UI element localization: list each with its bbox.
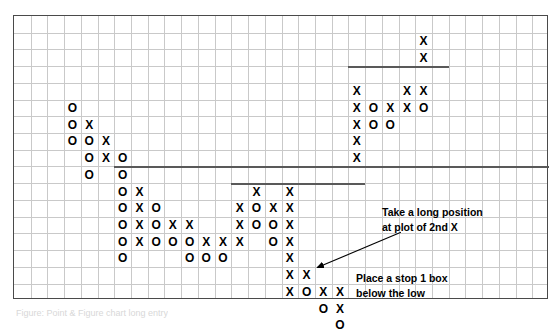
- pnf-x-mark: X: [415, 83, 432, 100]
- pnf-o-mark: O: [81, 133, 98, 150]
- pnf-o-mark: O: [248, 200, 265, 217]
- grid-vline: [365, 16, 366, 298]
- pnf-x-mark: X: [81, 116, 98, 133]
- pnf-x-mark: X: [315, 284, 332, 301]
- grid-vline: [332, 16, 333, 298]
- grid-vline: [432, 16, 433, 298]
- pnf-x-mark: X: [164, 217, 181, 234]
- pnf-x-mark: X: [282, 200, 299, 217]
- long-entry-note: Take a long positionat plot of 2nd X: [382, 205, 483, 235]
- pnf-o-mark: O: [148, 217, 165, 234]
- figure-caption: Figure: Point & Figure chart long entry: [16, 308, 168, 320]
- pnf-x-mark: X: [415, 49, 432, 66]
- pnf-x-mark: X: [348, 116, 365, 133]
- pnf-o-mark: O: [164, 233, 181, 250]
- pnf-x-mark: X: [399, 83, 416, 100]
- pnf-x-mark: X: [98, 133, 115, 150]
- pnf-x-mark: X: [348, 133, 365, 150]
- pnf-x-mark: X: [282, 284, 299, 301]
- pnf-x-mark: X: [198, 233, 215, 250]
- grid-vline: [449, 16, 450, 298]
- grid-vline: [131, 16, 132, 298]
- grid-vline: [64, 16, 65, 298]
- pnf-o-mark: O: [148, 233, 165, 250]
- pnf-o-mark: O: [181, 250, 198, 267]
- grid-hline: [14, 83, 547, 84]
- support-line-low: [114, 166, 549, 168]
- pnf-o-mark: O: [198, 250, 215, 267]
- grid-vline: [516, 16, 517, 298]
- pnf-x-mark: X: [131, 200, 148, 217]
- grid-hline: [14, 250, 547, 251]
- pnf-x-mark: X: [215, 233, 232, 250]
- pnf-x-mark: X: [231, 217, 248, 234]
- grid-vline: [148, 16, 149, 298]
- pnf-x-mark: X: [382, 100, 399, 117]
- pnf-o-mark: O: [332, 317, 349, 333]
- grid-hline: [14, 33, 547, 34]
- pnf-x-mark: X: [399, 100, 416, 117]
- pnf-x-mark: X: [282, 233, 299, 250]
- pnf-o-mark: O: [114, 150, 131, 167]
- grid-vline: [248, 16, 249, 298]
- pnf-o-mark: O: [114, 250, 131, 267]
- grid-vline: [164, 16, 165, 298]
- pnf-o-mark: O: [81, 166, 98, 183]
- pnf-o-mark: O: [114, 166, 131, 183]
- long-entry-note-line1: Take a long position: [382, 205, 483, 220]
- pnf-o-mark: O: [64, 100, 81, 117]
- grid-vline: [31, 16, 32, 298]
- pnf-x-mark: X: [415, 33, 432, 50]
- pnf-x-mark: X: [282, 250, 299, 267]
- pnf-o-mark: O: [64, 133, 81, 150]
- grid-vline: [482, 16, 483, 298]
- pnf-x-mark: X: [181, 217, 198, 234]
- stop-loss-note-line1: Place a stop 1 box: [356, 271, 448, 286]
- grid-vline: [465, 16, 466, 298]
- pnf-x-mark: X: [231, 200, 248, 217]
- pnf-o-mark: O: [415, 100, 432, 117]
- grid-hline: [14, 284, 547, 285]
- pnf-o-mark: O: [265, 233, 282, 250]
- pnf-x-mark: X: [231, 233, 248, 250]
- pnf-o-mark: O: [148, 200, 165, 217]
- pnf-x-mark: X: [332, 300, 349, 317]
- pnf-x-mark: X: [131, 217, 148, 234]
- pnf-x-mark: X: [98, 150, 115, 167]
- pnf-o-mark: O: [81, 150, 98, 167]
- pnf-o-mark: O: [114, 183, 131, 200]
- pnf-o-mark: O: [114, 200, 131, 217]
- grid-vline: [382, 16, 383, 298]
- grid-vline: [315, 16, 316, 298]
- pnf-x-mark: X: [248, 183, 265, 200]
- pnf-o-mark: O: [114, 217, 131, 234]
- pnf-o-mark: O: [181, 233, 198, 250]
- long-entry-note-line2: at plot of 2nd X: [382, 220, 483, 235]
- grid-vline: [499, 16, 500, 298]
- pnf-o-mark: O: [248, 217, 265, 234]
- grid-vline: [265, 16, 266, 298]
- grid-vline: [399, 16, 400, 298]
- pnf-o-mark: O: [365, 100, 382, 117]
- pnf-o-mark: O: [315, 300, 332, 317]
- pnf-x-mark: X: [282, 183, 299, 200]
- pnf-o-mark: O: [365, 116, 382, 133]
- pnf-o-mark: O: [215, 250, 232, 267]
- chart-plot-area: OOOXOOOXXOOOOOOOXXXXOOOXOXOOXOXOXXXXOOXO…: [13, 15, 548, 299]
- support-line-high: [348, 66, 448, 68]
- pnf-x-mark: X: [298, 267, 315, 284]
- pnf-x-mark: X: [131, 233, 148, 250]
- pnf-o-mark: O: [298, 284, 315, 301]
- pnf-o-mark: O: [114, 233, 131, 250]
- pnf-o-mark: O: [382, 116, 399, 133]
- grid-hline: [14, 267, 547, 268]
- support-line-mid: [231, 183, 365, 185]
- pnf-x-mark: X: [348, 100, 365, 117]
- pnf-x-mark: X: [282, 267, 299, 284]
- grid-hline: [14, 100, 547, 101]
- pnf-x-mark: X: [131, 183, 148, 200]
- pnf-x-mark: X: [332, 284, 349, 301]
- pnf-x-mark: X: [348, 150, 365, 167]
- grid-hline: [14, 49, 547, 50]
